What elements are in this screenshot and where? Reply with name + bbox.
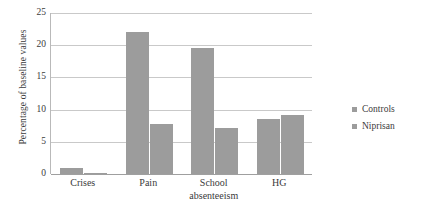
legend: ControlsNiprisan [352, 101, 422, 135]
y-tick-label: 10 [24, 105, 46, 115]
y-tick-label: 0 [24, 169, 46, 179]
bar-group [257, 13, 304, 174]
legend-swatch-icon [352, 107, 357, 112]
bar-chart-figure: Percentage of baseline values 0510152025… [0, 0, 425, 214]
bar-niprisan-0 [84, 173, 107, 174]
bar-group [126, 13, 173, 174]
x-tick-label-line: HG [272, 177, 286, 188]
x-tick-label-line: absenteeism [181, 189, 247, 202]
x-tick-label-line: Pain [139, 177, 157, 188]
bar-controls-0 [60, 168, 83, 174]
x-tick-label-line: School [200, 177, 228, 188]
bar-controls-3 [257, 119, 280, 174]
y-axis-tick-labels: 0510152025 [24, 13, 46, 174]
x-axis-tick-labels: CrisesPainSchoolabsenteeismHG [50, 176, 312, 214]
y-tick-label: 25 [24, 8, 46, 18]
legend-item-controls: Controls [352, 101, 422, 118]
bar-niprisan-3 [281, 115, 304, 174]
bar-group [60, 13, 107, 174]
y-tick-label: 15 [24, 73, 46, 83]
x-tick-label: Schoolabsenteeism [181, 176, 247, 202]
legend-swatch-icon [352, 124, 357, 129]
y-tick-label: 20 [24, 40, 46, 50]
x-tick-label: Crises [50, 176, 116, 189]
axis-baseline [51, 174, 312, 175]
x-tick-label: HG [247, 176, 313, 189]
x-tick-label: Pain [116, 176, 182, 189]
bar-niprisan-2 [215, 128, 238, 174]
bar-controls-1 [126, 32, 149, 174]
legend-label: Controls [362, 105, 395, 115]
legend-item-niprisan: Niprisan [352, 118, 422, 135]
bar-niprisan-1 [150, 124, 173, 174]
legend-label: Niprisan [362, 122, 395, 132]
bar-controls-2 [191, 48, 214, 174]
bar-group [191, 13, 238, 174]
x-tick-label-line: Crises [70, 177, 95, 188]
plot-area [50, 13, 312, 174]
y-tick-label: 5 [24, 137, 46, 147]
bar-groups [51, 13, 312, 174]
